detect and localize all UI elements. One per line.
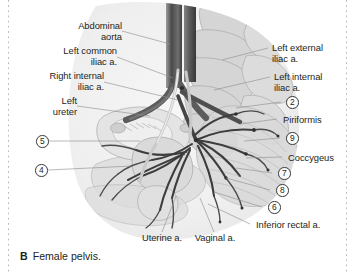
callout-number-2[interactable]: 2 [286,96,299,109]
callout-number-9[interactable]: 9 [286,132,299,145]
label-piriformis: Piriformis [283,114,353,125]
caption-text: Female pelvis. [33,250,101,262]
callout-number-8[interactable]: 8 [276,184,289,197]
label-inferior-rectal-a: Inferior rectal a. [256,219,354,230]
label-coccygeus: Coccygeus [288,152,354,163]
label-left-ureter: Left ureter [14,95,77,118]
callout-number-7[interactable]: 7 [278,167,291,180]
label-vaginal-a: Vaginal a. [182,232,248,243]
figure-page: Abdominal aorta Left common iliac a. Rig… [0,0,355,272]
figure-caption: BFemale pelvis. [20,250,101,263]
label-left-common-iliac-a: Left common iliac a. [14,45,117,68]
label-left-internal-iliac-a: Left internal iliac a. [274,71,354,94]
label-left-external-iliac-a: Left external iliac a. [272,42,354,65]
ivc-vessel [184,0,196,82]
label-abdominal-aorta: Abdominal aorta [22,20,122,43]
label-right-internal-iliac-a: Right internal iliac a. [2,70,104,93]
abdominal-aorta-vessel [166,0,182,88]
callout-number-5[interactable]: 5 [36,135,49,148]
callout-number-6[interactable]: 6 [268,201,281,214]
callout-number-4[interactable]: 4 [35,164,48,177]
caption-letter: B [20,250,28,262]
